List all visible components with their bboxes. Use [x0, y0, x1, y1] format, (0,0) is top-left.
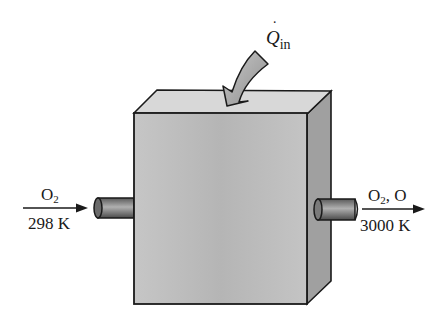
reactor-diagram: [0, 0, 446, 330]
heat-input-label: ˙Qin: [266, 27, 291, 49]
box-side-face: [307, 91, 331, 304]
outlet-temperature-label: 3000 K: [360, 217, 411, 234]
box-front-face: [134, 113, 307, 304]
outlet-arrow-icon: [362, 205, 425, 214]
inlet-species-label: O2: [41, 186, 59, 203]
outlet-pipe: [314, 199, 358, 220]
inlet-pipe: [94, 198, 134, 218]
outlet-species-label: O2, O: [368, 187, 407, 204]
inlet-temperature-label: 298 K: [28, 215, 70, 232]
dot-accent: ˙: [272, 18, 277, 36]
